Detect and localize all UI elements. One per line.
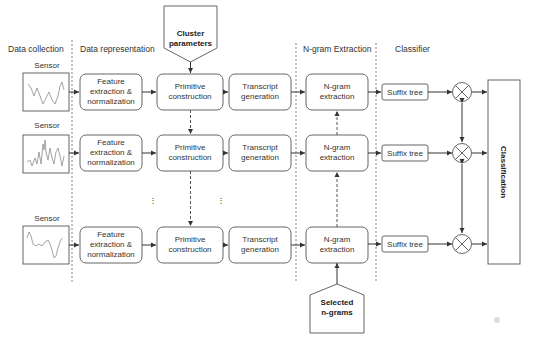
primitive-label-2: construction — [168, 245, 211, 254]
pipeline-diagram: Data collection Data representation N-gr… — [0, 0, 534, 346]
stage-header-data-collection: Data collection — [8, 44, 64, 54]
primitive-label-1: Primitive — [175, 143, 206, 152]
feature-label-2: extraction & — [90, 87, 133, 96]
ngram-label-2: extraction — [320, 153, 355, 162]
suffix-tree-label: Suffix tree — [387, 88, 423, 97]
stage-header-ngram-extraction: N-gram Extraction — [303, 44, 372, 54]
feature-label-1: Feature — [97, 77, 125, 86]
stage-header-data-representation: Data representation — [80, 44, 155, 54]
circle-x-icon — [453, 235, 472, 254]
primitive-label-2: construction — [168, 92, 211, 101]
sensor-label: Sensor — [34, 61, 60, 70]
ngram-label-2: extraction — [320, 245, 355, 254]
sensor-plot — [23, 135, 69, 173]
suffix-tree-label: Suffix tree — [387, 240, 423, 249]
sensor-plot — [23, 226, 69, 264]
cluster-parameters-input: Cluster parameters — [164, 6, 217, 62]
watermark-icon — [494, 317, 500, 323]
ngram-label-1: N-gram — [324, 235, 351, 244]
feature-label-3: normalization — [87, 250, 135, 259]
feature-label-1: Feature — [97, 230, 125, 239]
circle-x-icon — [453, 83, 472, 102]
selected-ngrams-line1: Selected — [321, 298, 354, 307]
ngram-label-1: N-gram — [324, 143, 351, 152]
ellipsis-transcript: ⋮ — [217, 196, 225, 205]
sensor-label: Sensor — [34, 214, 60, 223]
transcript-label-1: Transcript — [242, 143, 278, 152]
pipeline-row-2: Sensor Feature extraction & normalizatio… — [23, 121, 487, 173]
feature-label-3: normalization — [87, 97, 135, 106]
ellipsis-feature: ⋮ — [149, 196, 157, 205]
transcript-label-2: generation — [241, 153, 279, 162]
classification-label: Classification — [499, 146, 508, 198]
feature-label-2: extraction & — [90, 240, 133, 249]
suffix-tree-label: Suffix tree — [387, 149, 423, 158]
transcript-label-2: generation — [241, 245, 279, 254]
pipeline-row-3: Sensor Feature extraction & normalizatio… — [23, 214, 487, 264]
pipeline-row-1: Sensor Feature extraction & normalizatio… — [23, 61, 487, 111]
transcript-label-2: generation — [241, 92, 279, 101]
selected-ngrams-line2: n-grams — [321, 308, 353, 317]
primitive-label-2: construction — [168, 153, 211, 162]
cluster-parameters-line1: Cluster — [177, 29, 205, 38]
feature-label-1: Feature — [97, 138, 125, 147]
ngram-label-1: N-gram — [324, 82, 351, 91]
feature-label-3: normalization — [87, 158, 135, 167]
transcript-label-1: Transcript — [242, 82, 278, 91]
ngram-label-2: extraction — [320, 92, 355, 101]
classification-box: Classification — [488, 80, 520, 264]
selected-ngrams-input: Selected n-grams — [310, 284, 364, 333]
circle-x-icon — [453, 144, 472, 163]
primitive-label-1: Primitive — [175, 235, 206, 244]
transcript-label-1: Transcript — [242, 235, 278, 244]
feature-label-2: extraction & — [90, 148, 133, 157]
cluster-parameters-line2: parameters — [169, 39, 213, 48]
sensor-plot — [23, 73, 69, 111]
stage-header-classifier: Classifier — [395, 44, 430, 54]
primitive-label-1: Primitive — [175, 82, 206, 91]
sensor-label: Sensor — [34, 121, 60, 130]
